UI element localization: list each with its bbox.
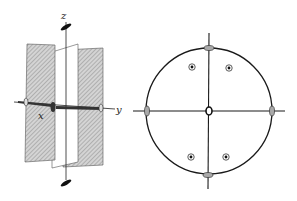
mirror-planes-3d: z y x	[14, 10, 122, 188]
stereogram	[133, 33, 285, 189]
pole-4	[223, 154, 229, 160]
twofold-symbol-center-icon	[206, 107, 212, 115]
pole-3	[188, 154, 194, 160]
x-axis-label: x	[38, 110, 44, 121]
twofold-symbol-top-icon	[204, 46, 214, 51]
pole-2	[226, 65, 232, 71]
rod-end-mid-icon	[51, 102, 56, 112]
pole-1	[189, 64, 195, 70]
diagram-canvas: z y x	[0, 0, 297, 201]
y-axis-label: y	[115, 104, 122, 115]
rod-end-right-icon	[99, 104, 103, 112]
twofold-symbol-left-icon	[145, 106, 150, 116]
z-axis-label: z	[60, 10, 67, 21]
rod-end-left-icon	[24, 98, 28, 106]
twofold-symbol-bottom-icon	[203, 173, 213, 178]
twofold-symbol-right-icon	[270, 106, 275, 116]
